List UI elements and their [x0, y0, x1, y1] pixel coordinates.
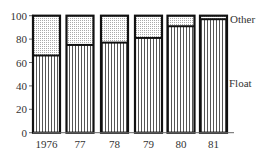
segment-other	[33, 16, 60, 56]
x-tick-label: 80	[176, 138, 188, 150]
y-tick-label: 40	[16, 80, 28, 92]
legend-label-float: Float	[229, 77, 252, 89]
bar-81	[200, 16, 227, 133]
segment-other	[168, 16, 195, 27]
segment-float	[168, 26, 195, 132]
chart-canvas: 020406080100 19767778798081 OtherFloat	[0, 0, 262, 155]
x-axis: 19767778798081	[33, 133, 234, 150]
bar-77	[67, 16, 94, 133]
bar-1976	[33, 16, 60, 133]
y-tick-label: 80	[16, 33, 28, 45]
legend: OtherFloat	[229, 13, 255, 89]
y-axis: 020406080100	[11, 10, 34, 139]
x-tick-label: 79	[143, 138, 155, 150]
x-tick-label: 1976	[36, 138, 59, 150]
segment-float	[33, 55, 60, 132]
y-tick-label: 60	[16, 57, 28, 69]
segment-float	[67, 45, 94, 133]
segment-other	[67, 16, 94, 45]
bars	[33, 16, 227, 133]
segment-float	[101, 43, 128, 133]
bar-79	[135, 16, 162, 133]
x-tick-label: 77	[75, 138, 87, 150]
stacked-bar-chart: 020406080100 19767778798081 OtherFloat	[0, 0, 262, 155]
segment-other	[135, 16, 162, 38]
legend-label-other: Other	[230, 13, 255, 25]
y-tick-label: 0	[22, 127, 28, 139]
segment-float	[135, 38, 162, 133]
segment-float	[200, 19, 227, 132]
bar-80	[168, 16, 195, 133]
x-tick-label: 81	[208, 138, 219, 150]
x-tick-label: 78	[109, 138, 121, 150]
y-tick-label: 20	[16, 103, 28, 115]
segment-other	[101, 16, 128, 43]
y-tick-label: 100	[11, 10, 28, 22]
bar-78	[101, 16, 128, 133]
